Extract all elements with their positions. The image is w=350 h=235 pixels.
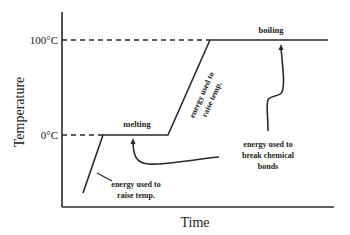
annotation-break-bonds-line2: break chemical	[242, 151, 295, 160]
annotation-break-bonds-line3: bonds	[258, 162, 278, 171]
boiling-label: boiling	[258, 25, 284, 35]
pointer-line-raise-temp-1	[97, 173, 112, 181]
melting-label: melting	[123, 119, 151, 129]
arrowhead-boiling	[279, 44, 284, 50]
y-tick-100c: 100°C	[30, 34, 58, 46]
arrow-to-melting	[133, 141, 219, 164]
x-axis-label: Time	[180, 215, 209, 230]
arrowhead-melting	[131, 138, 136, 144]
annotation-raise-temp-1-line1: energy used to	[111, 180, 160, 189]
y-tick-0c: 0°C	[41, 129, 58, 141]
annotation-raise-temp-1-line2: raise temp.	[117, 191, 155, 200]
y-axis-label: Temperature	[12, 77, 27, 148]
arrow-to-boiling	[267, 48, 283, 131]
annotation-break-bonds-line1: energy used to	[243, 140, 292, 149]
heating-curve-diagram: 100°C 0°C Temperature Time melting boili…	[0, 0, 350, 235]
